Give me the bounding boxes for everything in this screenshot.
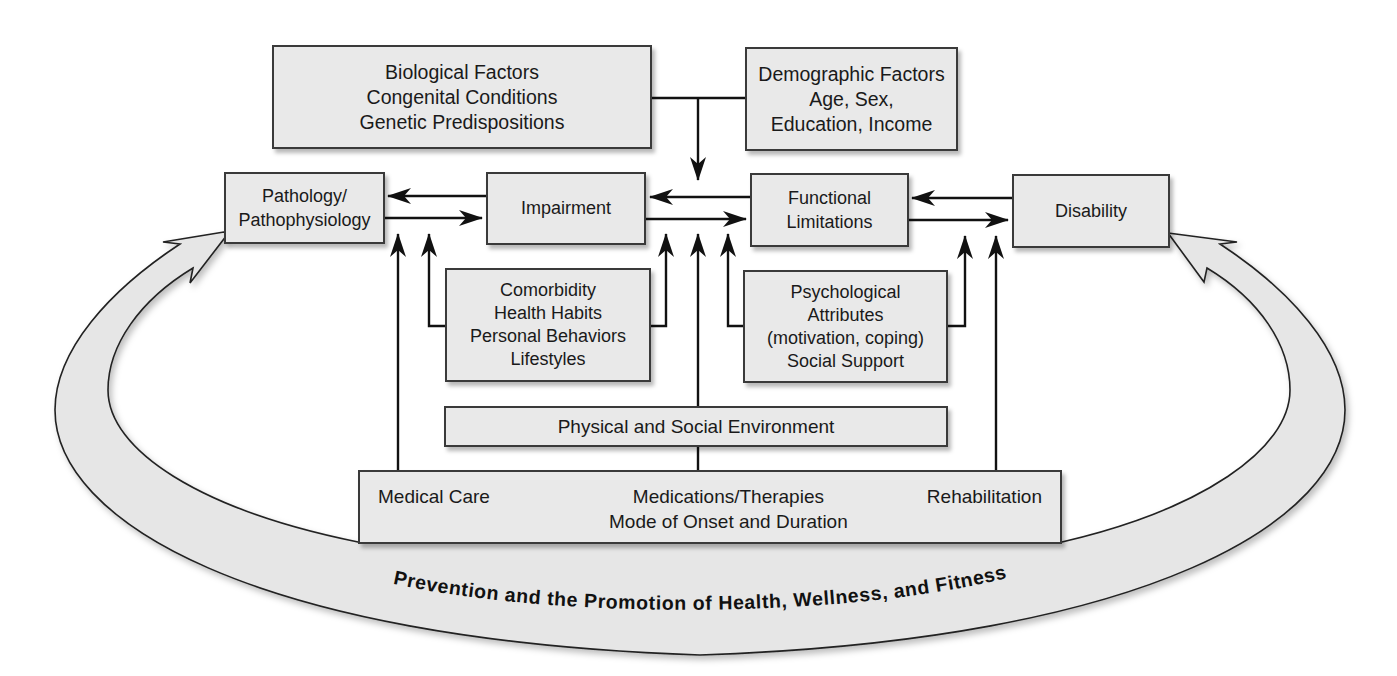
disability-label: Disability — [1055, 199, 1127, 224]
functional-line-2: Limitations — [786, 210, 872, 234]
comorbidity-line-2: Health Habits — [494, 302, 602, 325]
psychological-line-3: (motivation, coping) — [767, 327, 924, 350]
demographic-line-1: Demographic Factors — [758, 62, 944, 87]
functional-line-1: Functional — [788, 186, 871, 210]
rehabilitation-col: Rehabilitation — [927, 484, 1042, 509]
comorbidity-line-1: Comorbidity — [500, 279, 596, 302]
disablement-diagram: Prevention and the Promotion of Health, … — [0, 0, 1397, 676]
medical-care-col: Medical Care — [378, 484, 490, 509]
comorbidity-line-3: Personal Behaviors — [470, 325, 626, 348]
psychological-line-4: Social Support — [787, 350, 904, 373]
connector-layer: Prevention and the Promotion of Health, … — [0, 0, 1397, 676]
environment-label: Physical and Social Environment — [558, 414, 835, 439]
pathology-line-2: Pathophysiology — [238, 208, 370, 232]
demographic-factors-box: Demographic Factors Age, Sex, Education,… — [745, 47, 958, 151]
biological-line-1: Biological Factors — [385, 60, 539, 85]
comorbidity-box: Comorbidity Health Habits Personal Behav… — [445, 268, 651, 382]
psychological-line-1: Psychological — [790, 281, 900, 304]
demographic-line-2: Age, Sex, — [809, 87, 894, 112]
functional-limitations-box: Functional Limitations — [750, 173, 909, 247]
psychological-line-2: Attributes — [807, 304, 883, 327]
care-box: Medical Care Medications/Therapies Mode … — [358, 470, 1062, 544]
rehabilitation-label: Rehabilitation — [927, 484, 1042, 509]
comorbidity-line-4: Lifestyles — [510, 348, 585, 371]
biological-line-2: Congenital Conditions — [367, 85, 558, 110]
psychological-box: Psychological Attributes (motivation, co… — [743, 270, 948, 383]
onset-duration-label: Mode of Onset and Duration — [609, 509, 848, 534]
biological-line-3: Genetic Predispositions — [360, 110, 565, 135]
demographic-line-3: Education, Income — [771, 112, 933, 137]
impairment-box: Impairment — [486, 172, 646, 245]
disability-box: Disability — [1012, 174, 1170, 248]
environment-box: Physical and Social Environment — [444, 406, 948, 447]
impairment-label: Impairment — [521, 196, 611, 221]
pathology-line-1: Pathology/ — [262, 184, 347, 208]
biological-factors-box: Biological Factors Congenital Conditions… — [272, 45, 652, 149]
medications-col: Medications/Therapies Mode of Onset and … — [609, 484, 848, 534]
medications-label: Medications/Therapies — [633, 484, 824, 509]
pathology-box: Pathology/ Pathophysiology — [224, 172, 385, 244]
medical-care-label: Medical Care — [378, 484, 490, 509]
